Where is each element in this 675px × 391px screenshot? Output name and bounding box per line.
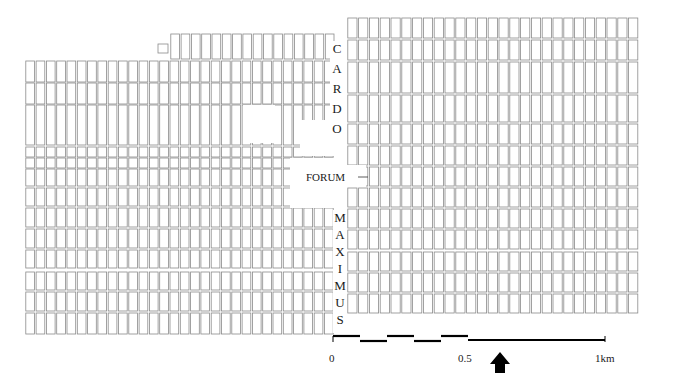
insula-plot bbox=[325, 313, 334, 334]
insula-plot bbox=[607, 124, 616, 144]
insula-plot bbox=[191, 169, 200, 186]
insula-plot bbox=[488, 40, 497, 60]
insula-plot bbox=[77, 292, 86, 311]
street-letter: X bbox=[335, 244, 345, 259]
insula-plot bbox=[191, 105, 200, 145]
insula-plot bbox=[273, 313, 282, 334]
insula-plot bbox=[423, 230, 432, 249]
insula-plot bbox=[488, 230, 497, 249]
insula-plot bbox=[521, 18, 530, 38]
insula-plot bbox=[445, 230, 454, 249]
insula-plot bbox=[180, 272, 189, 290]
insula-plot bbox=[26, 105, 35, 145]
insula-plot bbox=[211, 158, 220, 168]
insula-plot bbox=[232, 169, 241, 186]
insula-plot bbox=[77, 250, 86, 268]
insula-plot bbox=[445, 273, 454, 292]
insula-plot bbox=[180, 208, 189, 227]
insula-plot bbox=[369, 146, 378, 165]
insula-plot bbox=[211, 169, 220, 186]
insula-plot bbox=[294, 272, 303, 290]
street-letter: O bbox=[332, 121, 341, 136]
insula-plot bbox=[369, 294, 378, 313]
insula-plot bbox=[510, 167, 519, 186]
insula-plot bbox=[445, 62, 454, 93]
insula-plot bbox=[98, 292, 107, 311]
insula-plot bbox=[369, 124, 378, 144]
insula-plot bbox=[252, 61, 261, 82]
insula-plot bbox=[26, 169, 35, 186]
insula-plot bbox=[36, 61, 45, 82]
insula-plot bbox=[402, 167, 411, 186]
insula-plot bbox=[26, 229, 35, 248]
insula-plot bbox=[434, 40, 443, 60]
insula-plot bbox=[564, 95, 573, 122]
insula-plot bbox=[77, 208, 86, 227]
insula-plot bbox=[467, 62, 476, 93]
insula-plot bbox=[252, 313, 261, 334]
insula-plot bbox=[618, 188, 627, 207]
insula-plot bbox=[499, 167, 508, 186]
insula-plot bbox=[119, 272, 128, 290]
insula-plot bbox=[233, 34, 242, 59]
insula-plot bbox=[510, 146, 519, 165]
insula-plot bbox=[160, 83, 169, 104]
insula-plot bbox=[531, 188, 540, 207]
insula-plot bbox=[160, 188, 169, 206]
insula-plot bbox=[201, 83, 210, 104]
insula-plot bbox=[222, 158, 231, 168]
insula-plot bbox=[510, 252, 519, 271]
insula-plot bbox=[510, 62, 519, 93]
insula-plot bbox=[456, 209, 465, 228]
insula-plot bbox=[434, 95, 443, 122]
insula-plot bbox=[553, 167, 562, 186]
insula-plot bbox=[119, 61, 128, 82]
insula-plot bbox=[129, 147, 138, 157]
insula-plot bbox=[456, 167, 465, 186]
insula-plot bbox=[477, 273, 486, 292]
insula-plot bbox=[283, 105, 292, 145]
insula-plot bbox=[423, 252, 432, 271]
insula-plot bbox=[57, 250, 66, 268]
insula-plot bbox=[607, 40, 616, 60]
insula-plot bbox=[434, 146, 443, 165]
insula-plot bbox=[222, 83, 231, 104]
insula-plot bbox=[26, 208, 35, 227]
insula-plot bbox=[88, 188, 97, 206]
scale-tick-0-5: 0.5 bbox=[458, 352, 472, 364]
insula-plot bbox=[413, 209, 422, 228]
insula-plot bbox=[274, 34, 283, 59]
north-arrow-icon bbox=[490, 352, 510, 373]
insula-plot bbox=[413, 230, 422, 249]
insula-plot bbox=[139, 147, 148, 157]
insula-plot bbox=[283, 83, 292, 104]
insula-plot bbox=[359, 209, 368, 228]
insula-plot bbox=[232, 188, 241, 206]
insula-plot bbox=[467, 40, 476, 60]
insula-plot bbox=[499, 146, 508, 165]
insula-plot bbox=[201, 105, 210, 145]
insula-plot bbox=[46, 250, 55, 268]
insula-plot bbox=[160, 169, 169, 186]
insula-plot bbox=[273, 250, 282, 268]
insula-plot bbox=[391, 230, 400, 249]
insula-plot bbox=[191, 34, 200, 59]
city-plan-map: CARDO FORUM MAXIMUS 0 0.5 1km bbox=[0, 0, 675, 391]
insula-plot bbox=[119, 169, 128, 186]
insula-plot bbox=[242, 208, 251, 227]
insula-plot bbox=[467, 294, 476, 313]
insula-plot bbox=[191, 147, 200, 157]
scale-tick-0: 0 bbox=[329, 352, 335, 364]
insula-plot bbox=[575, 188, 584, 207]
insula-plot bbox=[314, 229, 323, 248]
insula-plot bbox=[129, 105, 138, 145]
insula-plot bbox=[129, 229, 138, 248]
insula-plot bbox=[314, 250, 323, 268]
insula-plot bbox=[413, 252, 422, 271]
insula-plot bbox=[499, 294, 508, 313]
insula-plot bbox=[67, 169, 76, 186]
insula-plot bbox=[596, 62, 605, 93]
insula-plot bbox=[477, 252, 486, 271]
insula-plot bbox=[180, 147, 189, 157]
insula-plot bbox=[46, 188, 55, 206]
